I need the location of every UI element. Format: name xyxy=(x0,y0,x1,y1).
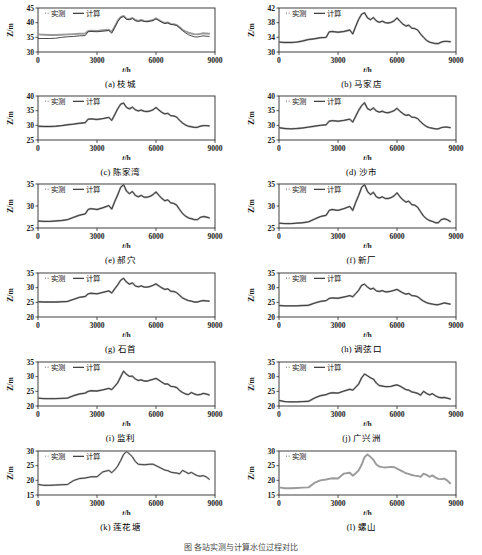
plot-area-l: 152025300300060009000Z/mt/h实测 xyxy=(241,443,482,515)
y-tick-label: 25 xyxy=(26,224,34,233)
figure-caption: 图 各站实测与计算水位过程对比 xyxy=(0,541,482,552)
plot-area-d: 253035400300060009000Z/mt/h实测计算 xyxy=(241,88,482,160)
y-tick-label: 25 xyxy=(267,298,275,307)
x-tick-label: 3000 xyxy=(89,56,104,65)
x-tick-label: 9000 xyxy=(207,321,222,330)
subplot-caption-k: (k) 莲花塘 xyxy=(0,522,241,532)
subplot-l: 152025300300060009000Z/mt/h实测(l) 螺山 xyxy=(241,443,482,532)
x-tick-label: 3000 xyxy=(89,144,104,153)
y-tick-label: 30 xyxy=(26,283,34,292)
series-line-computed xyxy=(279,374,450,402)
y-tick-label: 30 xyxy=(267,202,275,211)
subplot-caption-g: (g) 石首 xyxy=(0,344,241,354)
y-tick-label: 25 xyxy=(26,136,34,145)
subplot-e: 2530350300060009000Z/mt/h实测计算(e) 郝穴 xyxy=(0,176,241,265)
plot-area-c: 253035400300060009000Z/mt/h实测计算 xyxy=(0,88,241,160)
legend-label-computed: 计算 xyxy=(327,97,341,106)
subplot-caption-e: (e) 郝穴 xyxy=(0,255,241,265)
y-tick-label: 25 xyxy=(26,461,34,470)
legend-label-measured: 实测 xyxy=(51,274,65,283)
y-tick-label: 35 xyxy=(267,106,275,115)
y-axis-label: Z/m xyxy=(6,199,15,213)
y-tick-label: 40 xyxy=(267,92,275,101)
x-axis-label: t/h xyxy=(122,154,131,160)
legend-label-computed: 计算 xyxy=(327,9,341,18)
subplot-c: 253035400300060009000Z/mt/h实测计算(c) 陈家湾 xyxy=(0,88,241,177)
legend-label-computed: 计算 xyxy=(86,9,100,18)
plot-area-f: 2530350300060009000Z/mt/h实测计算 xyxy=(241,176,482,248)
x-tick-label: 6000 xyxy=(148,321,163,330)
legend-label-measured: 实测 xyxy=(51,452,65,461)
x-tick-label: 0 xyxy=(36,232,40,241)
series-line-computed xyxy=(38,103,209,127)
series-line-measured xyxy=(279,374,450,402)
x-axis-label: t/h xyxy=(363,154,372,160)
y-axis-label: Z/m xyxy=(6,377,15,391)
x-tick-label: 3000 xyxy=(330,410,345,419)
series-line-measured xyxy=(38,16,209,35)
y-tick-label: 45 xyxy=(26,4,34,13)
series-line-computed xyxy=(279,103,450,129)
x-tick-label: 3000 xyxy=(89,499,104,508)
x-tick-label: 3000 xyxy=(330,56,345,65)
x-tick-label: 6000 xyxy=(389,321,404,330)
legend-label-computed: 计算 xyxy=(86,274,100,283)
subplot-caption-i: (i) 监利 xyxy=(0,433,241,443)
x-tick-label: 6000 xyxy=(148,56,163,65)
x-axis-label: t/h xyxy=(122,509,131,515)
y-axis-label: Z/m xyxy=(6,23,15,37)
x-tick-label: 0 xyxy=(277,410,281,419)
x-tick-label: 0 xyxy=(277,232,281,241)
x-tick-label: 3000 xyxy=(330,232,345,241)
x-tick-label: 6000 xyxy=(389,144,404,153)
y-tick-label: 20 xyxy=(267,313,275,322)
y-axis-label: Z/m xyxy=(247,23,256,37)
legend-label-computed: 计算 xyxy=(86,452,100,461)
y-axis-label: Z/m xyxy=(6,111,15,125)
y-tick-label: 42 xyxy=(267,4,275,13)
y-tick-label: 30 xyxy=(26,121,34,130)
subplot-caption-j: (j) 广兴洲 xyxy=(241,433,482,443)
x-tick-label: 9000 xyxy=(207,410,222,419)
plot-area-k: 152025300300060009000Z/mt/h实测计算 xyxy=(0,443,241,515)
y-tick-label: 40 xyxy=(26,18,34,27)
x-tick-label: 9000 xyxy=(207,499,222,508)
y-tick-label: 35 xyxy=(26,33,34,42)
x-tick-label: 9000 xyxy=(207,232,222,241)
legend-label-computed: 计算 xyxy=(86,185,100,194)
x-axis-label: t/h xyxy=(363,420,372,426)
y-axis-label: Z/m xyxy=(247,199,256,213)
x-axis-label: t/h xyxy=(122,331,131,337)
subplot-f: 2530350300060009000Z/mt/h实测计算(f) 新厂 xyxy=(241,176,482,265)
legend-label-measured: 实测 xyxy=(292,452,306,461)
x-tick-label: 0 xyxy=(277,144,281,153)
x-tick-label: 6000 xyxy=(148,232,163,241)
legend-label-computed: 计算 xyxy=(86,97,100,106)
y-tick-label: 35 xyxy=(267,358,275,367)
y-tick-label: 25 xyxy=(267,136,275,145)
y-tick-label: 35 xyxy=(26,180,34,189)
x-tick-label: 6000 xyxy=(148,144,163,153)
legend-label-measured: 实测 xyxy=(51,9,65,18)
subplot-caption-h: (h) 调弦口 xyxy=(241,344,482,354)
plot-area-b: 303438420300060009000Z/mt/h实测计算 xyxy=(241,0,482,72)
y-tick-label: 30 xyxy=(267,372,275,381)
x-tick-label: 0 xyxy=(36,499,40,508)
y-axis-label: Z/m xyxy=(247,466,256,480)
x-axis-label: t/h xyxy=(122,420,131,426)
x-tick-label: 0 xyxy=(36,321,40,330)
x-tick-label: 9000 xyxy=(448,56,463,65)
y-tick-label: 35 xyxy=(26,106,34,115)
subplot-g: 202530350300060009000Z/mt/h实测计算(g) 石首 xyxy=(0,265,241,354)
y-tick-label: 35 xyxy=(26,358,34,367)
y-tick-label: 34 xyxy=(267,33,275,42)
x-tick-label: 9000 xyxy=(448,321,463,330)
subplot-h: 202530350300060009000Z/mt/h实测计算(h) 调弦口 xyxy=(241,265,482,354)
subplot-k: 152025300300060009000Z/mt/h实测计算(k) 莲花塘 xyxy=(0,443,241,532)
y-tick-label: 35 xyxy=(26,269,34,278)
x-tick-label: 6000 xyxy=(148,410,163,419)
series-line-computed xyxy=(38,371,209,399)
legend-label-measured: 实测 xyxy=(51,185,65,194)
y-axis-label: Z/m xyxy=(247,288,256,302)
legend-label-measured: 实测 xyxy=(292,9,306,18)
